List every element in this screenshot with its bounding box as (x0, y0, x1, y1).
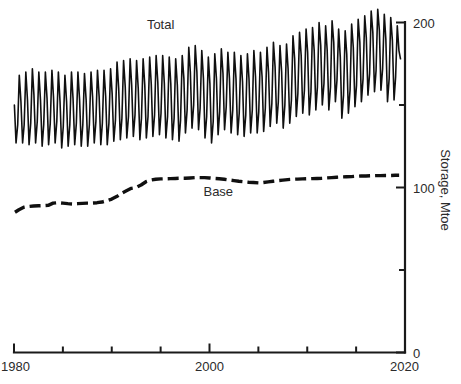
y-tick-label: 0 (413, 346, 420, 361)
y-axis-title: Storage, Mtoe (438, 149, 453, 231)
series-line-total (14, 9, 400, 148)
x-tick-label: 2000 (195, 359, 224, 374)
x-tick-label: 2020 (390, 359, 419, 374)
series-label-base: Base (203, 184, 233, 199)
chart-figure: 198020002020 0100200 TotalBase Storage, … (0, 0, 461, 384)
x-axis-tick-labels: 198020002020 (1, 359, 419, 374)
series-group (14, 9, 400, 212)
series-label-total: Total (147, 17, 175, 32)
y-tick-label: 200 (413, 16, 435, 31)
y-tick-label: 100 (413, 181, 435, 196)
chart-svg: 198020002020 0100200 TotalBase Storage, … (0, 0, 461, 384)
y-axis-tick-labels: 0100200 (413, 16, 435, 361)
x-axis-ticks (14, 344, 405, 353)
y-axis-ticks (396, 23, 405, 353)
x-tick-label: 1980 (1, 359, 30, 374)
